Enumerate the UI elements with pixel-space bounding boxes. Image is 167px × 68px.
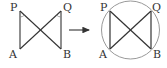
label-q-right: Q: [152, 1, 161, 14]
label-p-right: P: [100, 1, 108, 14]
geometry-diagram: P Q A B P Q A B: [0, 0, 167, 68]
label-p-left: P: [10, 1, 18, 14]
label-a-left: A: [8, 48, 18, 61]
label-q-left: Q: [63, 1, 72, 14]
label-a-right: A: [98, 48, 108, 61]
angle-mark-p-icon: [20, 15, 24, 17]
angle-mark-q-icon: [57, 15, 61, 17]
right-figure: P Q A B: [98, 1, 161, 61]
left-figure: P Q A B: [8, 1, 72, 61]
label-b-right: B: [153, 48, 161, 61]
label-b-left: B: [63, 48, 71, 61]
